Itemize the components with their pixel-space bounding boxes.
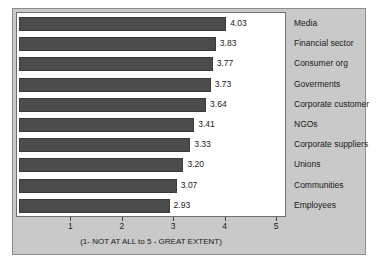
- category-row: Unions: [290, 154, 362, 174]
- bar-row: 3.77: [17, 54, 285, 74]
- category-row: Media: [290, 13, 362, 33]
- bar: [19, 199, 170, 213]
- category-label: Corporate customer: [294, 94, 369, 114]
- bar: [19, 179, 177, 193]
- bar-value-label: 3.77: [217, 56, 234, 71]
- bar-value-label: 4.03: [230, 16, 247, 31]
- category-row: Consumer org: [290, 53, 362, 73]
- category-row: Goverments: [290, 74, 362, 94]
- category-label-panel: MediaFinancial sectorConsumer orgGoverme…: [290, 12, 362, 253]
- bar: [19, 158, 183, 172]
- bar-row: 3.64: [17, 95, 285, 115]
- bar-row: 3.41: [17, 115, 285, 135]
- x-tick-label: 5: [274, 221, 279, 231]
- x-tick-label: 3: [171, 221, 176, 231]
- x-axis: 12345: [16, 217, 286, 239]
- bar: [19, 138, 190, 152]
- category-label: Employees: [294, 195, 336, 215]
- bar: [19, 78, 211, 92]
- chart-figure: 4.033.833.773.733.643.413.333.203.072.93…: [12, 8, 366, 255]
- bar-value-label: 3.20: [187, 157, 204, 172]
- bar: [19, 37, 216, 51]
- bar-row: 3.07: [17, 176, 285, 196]
- category-label: Goverments: [294, 74, 340, 94]
- bar-row: 2.93: [17, 196, 285, 216]
- bar: [19, 57, 213, 71]
- bar-row: 3.73: [17, 75, 285, 95]
- bar-value-label: 3.07: [181, 178, 198, 193]
- bar: [19, 98, 206, 112]
- category-label: Media: [294, 13, 317, 33]
- category-label: Consumer org: [294, 53, 348, 73]
- bar: [19, 17, 226, 31]
- x-tick-label: 2: [119, 221, 124, 231]
- category-row: Financial sector: [290, 33, 362, 53]
- bar-row: 3.33: [17, 135, 285, 155]
- bar-value-label: 3.83: [220, 36, 237, 51]
- category-label: Unions: [294, 154, 320, 174]
- category-label: Corporate suppliers: [294, 134, 368, 154]
- category-row: Corporate suppliers: [290, 134, 362, 154]
- plot-area: 4.033.833.773.733.643.413.333.203.072.93: [16, 12, 286, 217]
- bar-value-label: 3.41: [198, 117, 215, 132]
- bar-series: 4.033.833.773.733.643.413.333.203.072.93: [17, 13, 285, 216]
- x-axis-caption: (1- NOT AT ALL to 5 - GREAT EXTENT): [16, 237, 286, 246]
- category-row: Corporate customer: [290, 94, 362, 114]
- category-label: Financial sector: [294, 33, 354, 53]
- bar-value-label: 2.93: [174, 198, 191, 213]
- category-label: NGOs: [294, 114, 318, 134]
- bar-row: 4.03: [17, 14, 285, 34]
- bar-row: 3.83: [17, 34, 285, 54]
- category-row: Communities: [290, 175, 362, 195]
- category-row: NGOs: [290, 114, 362, 134]
- category-row: Employees: [290, 195, 362, 215]
- bar: [19, 118, 194, 132]
- bar-row: 3.20: [17, 155, 285, 175]
- x-tick-label: 4: [222, 221, 227, 231]
- bar-value-label: 3.73: [215, 77, 232, 92]
- x-tick-label: 1: [68, 221, 73, 231]
- bar-value-label: 3.64: [210, 97, 227, 112]
- bar-value-label: 3.33: [194, 137, 211, 152]
- category-label: Communities: [294, 175, 344, 195]
